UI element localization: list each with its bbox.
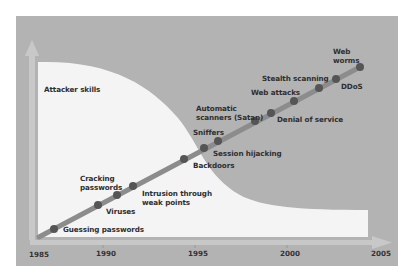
x-tick-1985: 1985 bbox=[29, 250, 49, 259]
event-label-backdoors: Backdoors bbox=[193, 161, 234, 170]
x-tick-2005: 2005 bbox=[371, 249, 391, 258]
event-label-web-worms: Web worms bbox=[333, 47, 359, 65]
event-label-automatic-scanners: Automatic scanners (Satan) bbox=[196, 104, 263, 122]
event-label-session-hijacking: Session hijacking bbox=[213, 149, 282, 158]
x-tick-2000: 2000 bbox=[280, 249, 300, 258]
event-label-stealth-scanning: Stealth scanning bbox=[262, 74, 329, 83]
event-label-web-attacks: Web attacks bbox=[251, 88, 300, 97]
y-axis-label: Attacker skills bbox=[44, 85, 100, 94]
y-axis-arrowhead bbox=[25, 40, 39, 56]
event-label-guessing-passwords: Guessing passwords bbox=[63, 225, 144, 234]
y-axis-shaft bbox=[29, 54, 35, 240]
x-tick-1990: 1990 bbox=[96, 249, 116, 258]
event-label-cracking-passwords: Cracking passwords bbox=[80, 174, 122, 192]
event-label-ddos: DDoS bbox=[341, 82, 363, 91]
x-axis-shaft bbox=[30, 240, 380, 245]
x-tick-1995: 1995 bbox=[188, 249, 208, 258]
event-label-sniffers: Sniffers bbox=[193, 128, 224, 137]
event-label-viruses: Viruses bbox=[106, 207, 135, 216]
event-label-denial-of-service: Denial of service bbox=[277, 115, 343, 124]
x-axis-arrowhead bbox=[372, 236, 392, 249]
diagram-graphics bbox=[0, 0, 416, 278]
event-label-intrusion: Intrusion through weak points bbox=[142, 189, 212, 207]
